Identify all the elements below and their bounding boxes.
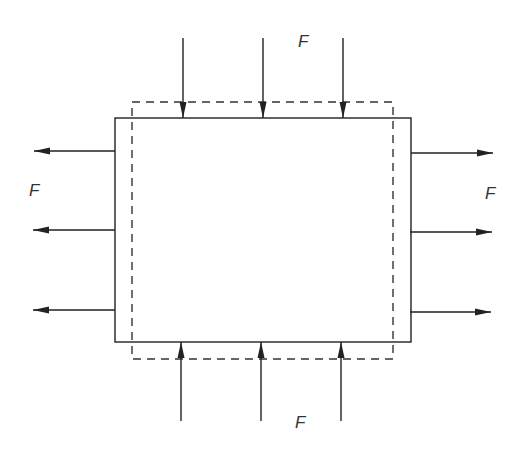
force-label-left: F	[29, 181, 41, 200]
force-label-bottom: F	[295, 413, 307, 432]
left-force-arrows	[33, 151, 115, 310]
right-force-arrows	[410, 153, 493, 312]
force-label-top: F	[298, 32, 310, 51]
original-element-outline	[115, 118, 411, 342]
top-force-arrows	[183, 38, 343, 118]
stress-diagram: F F F F	[0, 0, 514, 453]
deformed-element-outline	[132, 102, 393, 359]
bottom-force-arrows	[181, 342, 341, 421]
force-label-right: F	[485, 184, 497, 203]
